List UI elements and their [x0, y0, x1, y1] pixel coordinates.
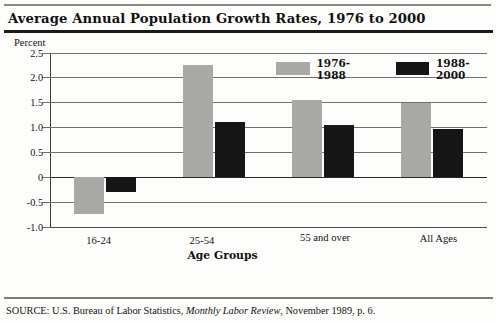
source-publication: Monthly Labor Review: [186, 305, 280, 316]
y-tick-label-0: 0: [38, 171, 43, 182]
y-tick-label-neg-0-5: -0.5: [27, 196, 43, 207]
legend-swatch-1976-1988: [276, 62, 310, 75]
bar-group-25-54: [159, 53, 268, 227]
y-axis-label: Percent: [14, 37, 46, 48]
bar-25-54-1976-1988[interactable]: [183, 65, 213, 177]
figure-container: Average Annual Population Growth Rates, …: [0, 0, 497, 322]
page-title: Average Annual Population Growth Rates, …: [0, 6, 497, 30]
y-tick-1-0: [42, 127, 50, 128]
y-tick-label-0-5: 0.5: [30, 146, 43, 157]
bar-16-24-1976-1988[interactable]: [74, 177, 104, 214]
y-tick-neg-1-0: [42, 227, 50, 228]
y-tick-1-5: [42, 102, 50, 103]
plot-wrapper: Percent 2.5 2.0 1.5 1.0 0.5: [4, 33, 493, 298]
y-tick-label-2-0: 2.0: [30, 72, 43, 83]
bar-16-24-1988-2000[interactable]: [106, 177, 136, 192]
bar-all-ages-1976-1988[interactable]: [401, 103, 431, 177]
legend-swatch-1988-2000: [396, 62, 430, 75]
x-tick-label-55-and-over: 55 and over: [271, 232, 380, 243]
legend-item-1976-1988[interactable]: 1976-1988: [276, 57, 374, 81]
x-axis-tick-labels: 16-24 25-54 55 and over All Ages: [50, 233, 487, 244]
bar-group-16-24: [50, 53, 159, 227]
y-tick-0: [42, 177, 50, 178]
y-tick-0-5: [42, 152, 50, 153]
y-tick-2-0: [42, 77, 50, 78]
y-tick-2-5: [42, 53, 50, 54]
y-tick-label-1-0: 1.0: [30, 122, 43, 133]
source-note: SOURCE: U.S. Bureau of Labor Statistics,…: [0, 299, 497, 316]
bar-55-and-over-1988-2000[interactable]: [324, 125, 354, 177]
source-suffix: , November 1989, p. 6.: [280, 305, 375, 316]
y-tick-label-1-5: 1.5: [30, 97, 43, 108]
x-axis-label: Age Groups: [0, 249, 467, 262]
gridline-neg-1-0: -1.0: [50, 227, 487, 228]
legend-label-1976-1988: 1976-1988: [317, 57, 374, 81]
x-tick-label-16-24: 16-24: [44, 235, 153, 246]
bar-25-54-1988-2000[interactable]: [215, 122, 245, 177]
x-tick-label-25-54: 25-54: [147, 235, 256, 246]
bar-55-and-over-1976-1988[interactable]: [292, 100, 322, 177]
y-tick-label-2-5: 2.5: [30, 47, 43, 58]
source-prefix: SOURCE: U.S. Bureau of Labor Statistics,: [6, 305, 186, 316]
x-tick-label-all-ages: All Ages: [384, 233, 493, 244]
y-tick-neg-0-5: [42, 202, 50, 203]
chart-legend: 1976-1988 1988-2000: [276, 57, 493, 81]
legend-item-1988-2000[interactable]: 1988-2000: [396, 57, 494, 81]
bar-all-ages-1988-2000[interactable]: [433, 129, 463, 177]
y-tick-label-neg-1-0: -1.0: [27, 221, 43, 232]
legend-label-1988-2000: 1988-2000: [436, 57, 493, 81]
figure-footer: SOURCE: U.S. Bureau of Labor Statistics,…: [0, 297, 497, 322]
